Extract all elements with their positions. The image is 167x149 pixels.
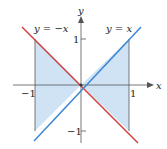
label-y-eq-neg-x: y = −x <box>33 23 69 34</box>
y-tick-label-neg1: −1 <box>67 126 82 137</box>
x-axis-arrow-icon <box>147 82 154 88</box>
x-axis-label: x <box>156 80 162 91</box>
label-y-eq-x: y = x <box>105 23 132 34</box>
x-tick-label-pos1: 1 <box>130 88 136 99</box>
y-axis-label: y <box>77 5 84 16</box>
y-tick-label-pos1: 1 <box>73 34 79 45</box>
chart: x y −1 1 1 −1 y = −x y = x <box>0 0 167 149</box>
x-tick-label-neg1: −1 <box>21 88 36 99</box>
y-axis-arrow-icon <box>78 16 84 23</box>
origin-point <box>80 84 83 87</box>
